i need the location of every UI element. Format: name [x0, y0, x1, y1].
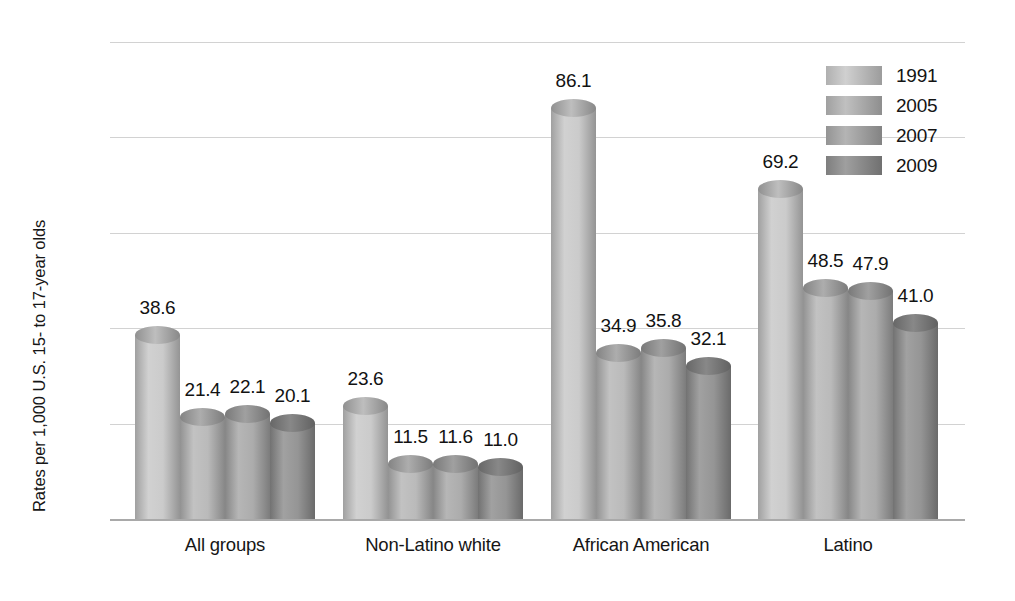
bar-top-ellipse — [478, 458, 523, 476]
bar-body — [893, 323, 938, 519]
bar-body — [803, 288, 848, 519]
bar-body — [180, 417, 225, 519]
bar-non-latino-white-2007: 11.6 — [433, 455, 478, 519]
bar-body — [686, 366, 731, 519]
legend-item-2005: 2005 — [826, 92, 986, 119]
bar-top-ellipse — [180, 408, 225, 426]
legend-swatch-1991 — [826, 66, 882, 85]
bar-top-ellipse — [433, 455, 478, 473]
bar-african-american-2007: 35.8 — [641, 339, 686, 519]
bar-body — [270, 423, 315, 519]
legend-swatch-2007 — [826, 126, 882, 145]
bar-all-groups-2005: 21.4 — [180, 408, 225, 519]
bar-top-ellipse — [803, 279, 848, 297]
y-axis-title: Rates per 1,000 U.S. 15- to 17-year olds — [22, 12, 56, 512]
bar-latino-1991: 69.2 — [758, 180, 803, 519]
legend-label-2007: 2007 — [896, 125, 937, 147]
bar-all-groups-2009: 20.1 — [270, 414, 315, 519]
bar-body — [135, 335, 180, 519]
chart-legend: 1991200520072009 — [826, 62, 986, 182]
bar-value-label: 86.1 — [531, 70, 616, 92]
legend-swatch-2009 — [826, 156, 882, 175]
bar-all-groups-1991: 38.6 — [135, 326, 180, 519]
bar-value-label: 41.0 — [873, 285, 958, 307]
bar-body — [848, 291, 893, 519]
bar-african-american-2009: 32.1 — [686, 357, 731, 519]
bar-non-latino-white-2009: 11.0 — [478, 458, 523, 519]
bar-value-label: 11.0 — [458, 429, 543, 451]
legend-label-1991: 1991 — [896, 65, 937, 87]
bar-african-american-1991: 86.1 — [551, 99, 596, 519]
bar-african-american-2005: 34.9 — [596, 344, 641, 519]
bar-value-label: 23.6 — [323, 368, 408, 390]
bar-non-latino-white-1991: 23.6 — [343, 397, 388, 519]
bar-top-ellipse — [758, 180, 803, 198]
bar-value-label: 38.6 — [115, 297, 200, 319]
x-category-label-african-american: African American — [551, 534, 731, 556]
bar-latino-2005: 48.5 — [803, 279, 848, 519]
bar-top-ellipse — [270, 414, 315, 432]
x-category-label-non-latino-white: Non-Latino white — [343, 534, 523, 556]
bar-non-latino-white-2005: 11.5 — [388, 455, 433, 519]
legend-item-2009: 2009 — [826, 152, 986, 179]
bar-all-groups-2007: 22.1 — [225, 405, 270, 519]
x-category-label-all-groups: All groups — [135, 534, 315, 556]
bar-value-label: 32.1 — [666, 328, 751, 350]
legend-label-2009: 2009 — [896, 155, 937, 177]
bar-body — [641, 348, 686, 519]
legend-item-2007: 2007 — [826, 122, 986, 149]
legend-item-1991: 1991 — [826, 62, 986, 89]
bar-top-ellipse — [225, 405, 270, 423]
bar-top-ellipse — [596, 344, 641, 362]
chart-figure: Rates per 1,000 U.S. 15- to 17-year olds… — [0, 0, 1015, 601]
x-category-label-latino: Latino — [758, 534, 938, 556]
bar-body — [596, 353, 641, 519]
bar-latino-2007: 47.9 — [848, 282, 893, 519]
x-axis-baseline — [110, 519, 965, 521]
bar-value-label: 69.2 — [738, 151, 823, 173]
bar-body — [343, 406, 388, 519]
bar-latino-2009: 41.0 — [893, 314, 938, 519]
gridline-100 — [110, 42, 965, 43]
bar-body — [225, 414, 270, 519]
gridline-60 — [110, 233, 965, 234]
bar-top-ellipse — [135, 326, 180, 344]
legend-swatch-2005 — [826, 96, 882, 115]
bar-body — [758, 189, 803, 519]
bar-top-ellipse — [686, 357, 731, 375]
bar-value-label: 47.9 — [828, 253, 913, 275]
legend-label-2005: 2005 — [896, 95, 937, 117]
